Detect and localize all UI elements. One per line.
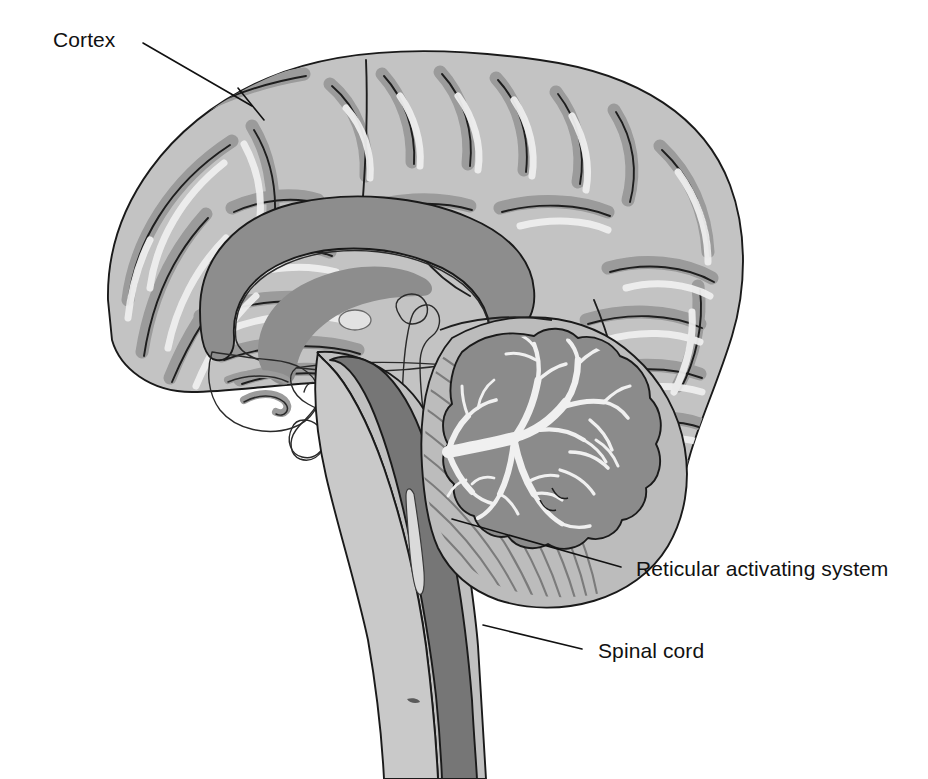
label-spinal-cord-text: Spinal cord bbox=[598, 639, 704, 662]
leader-spinal-cord bbox=[483, 625, 582, 649]
label-spinal-cord: Spinal cord bbox=[483, 625, 704, 662]
ventricle-oval bbox=[339, 310, 371, 330]
label-cortex-text: Cortex bbox=[53, 28, 116, 51]
leader-cortex bbox=[143, 43, 252, 106]
brain-diagram-figure: Cortex Reticular activating system Spina… bbox=[0, 0, 928, 779]
label-reticular-activating-system-text: Reticular activating system bbox=[636, 557, 888, 580]
brain-illustration: Cortex Reticular activating system Spina… bbox=[0, 0, 928, 779]
